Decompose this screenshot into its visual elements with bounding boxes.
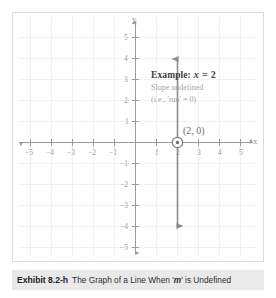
caption-description: The Graph of a Line When 'm' is Undefine… <box>72 275 231 285</box>
y-tick-label-4: 4 <box>124 55 128 63</box>
x-tick-label-5: 5 <box>239 149 243 157</box>
caption-exhibit-number: Exhibit 8.2-h <box>17 275 68 285</box>
x-tick-label-2: 2 <box>176 149 180 157</box>
x-tick-label--3: −3 <box>67 149 75 157</box>
annotation-line-2: Slope undefined <box>151 83 261 93</box>
caption-text-after: ' is Undefined <box>181 275 231 285</box>
y-tick-label--5: −5 <box>120 244 128 252</box>
x-tick-label-1: 1 <box>155 149 159 157</box>
annotation-title: Example:x=2 <box>151 69 261 82</box>
y-axis-label: y <box>132 15 136 24</box>
caption-bar: Exhibit 8.2-h The Graph of a Line When '… <box>12 270 264 290</box>
y-tick-label--4: −4 <box>120 223 128 231</box>
y-tick-label--3: −3 <box>120 202 128 210</box>
annotation-block: Example:x=2 Slope undefined (i.e., 'run'… <box>151 69 261 105</box>
point-label-2-0: (2, 0) <box>183 126 205 136</box>
exhibit-figure: −5 −4 −3 −2 −1 1 2 3 4 5 5 4 3 2 1 −1 −2… <box>0 0 276 298</box>
x-axis-label: x <box>253 137 257 146</box>
y-tick-label-5: 5 <box>124 34 128 42</box>
y-tick-label--1: −1 <box>120 160 128 168</box>
x-tick-label--1: −1 <box>109 149 117 157</box>
annotation-line-3: (i.e., 'run' = 0) <box>151 95 261 105</box>
plot-frame: −5 −4 −3 −2 −1 1 2 3 4 5 5 4 3 2 1 −1 −2… <box>12 12 264 262</box>
y-tick-label--2: −2 <box>120 181 128 189</box>
y-tick-label-1: 1 <box>125 118 129 126</box>
caption-text-before: The Graph of a Line When ' <box>72 275 174 285</box>
y-tick-label-3: 3 <box>124 76 128 84</box>
x-tick-label--5: −5 <box>25 149 33 157</box>
x-tick-label--2: −2 <box>88 149 96 157</box>
coordinate-plane <box>13 13 263 261</box>
y-tick-label-2: 2 <box>124 97 128 105</box>
annotation-title-equals: = <box>202 69 208 80</box>
annotation-title-value: 2 <box>211 69 216 80</box>
annotation-title-prefix: Example: <box>151 70 191 80</box>
x-tick-label-3: 3 <box>197 149 201 157</box>
point-marker-2-0 <box>172 137 182 147</box>
x-tick-label-4: 4 <box>218 149 222 157</box>
x-tick-label--4: −4 <box>46 149 54 157</box>
annotation-title-variable: x <box>194 69 199 80</box>
